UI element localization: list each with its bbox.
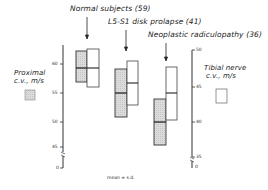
label-neoplastic-radiculopathy: Neoplastic radiculopathy (36) bbox=[148, 30, 262, 39]
left-legend-title: Proximal bbox=[14, 69, 45, 77]
right-axis bbox=[190, 50, 195, 168]
left-axis bbox=[60, 45, 65, 168]
box-neoplastic-tibial bbox=[166, 67, 177, 120]
left-tick-45: 45 bbox=[52, 144, 58, 149]
label-normal-subjects: Normal subjects (59) bbox=[70, 4, 151, 13]
box-normal-proximal bbox=[76, 51, 87, 82]
box-l5s1-tibial bbox=[127, 61, 138, 105]
right-tick-45: 45 bbox=[196, 84, 202, 89]
right-legend-units: c.v., m/s bbox=[206, 72, 236, 80]
left-tick-55: 55 bbox=[52, 90, 58, 95]
box-l5s1-proximal bbox=[115, 69, 127, 117]
box-neoplastic-proximal bbox=[154, 99, 166, 145]
legend-swatch-proximal bbox=[25, 90, 35, 100]
chart-canvas bbox=[0, 0, 268, 190]
right-tick-50: 50 bbox=[196, 47, 202, 52]
right-tick-40: 40 bbox=[196, 119, 202, 124]
left-tick-0: 0 bbox=[56, 165, 59, 170]
box-normal-tibial bbox=[87, 49, 99, 87]
footnote-mean-sd: mean ± s.d. bbox=[107, 175, 134, 180]
legend-swatch-tibial bbox=[216, 89, 227, 103]
right-legend-title: Tibial nerve bbox=[204, 64, 246, 72]
left-tick-60: 60 bbox=[52, 61, 58, 66]
left-tick-50: 50 bbox=[52, 119, 58, 124]
label-l5s1-disk-prolapse: L5-S1 disk prolapse (41) bbox=[108, 17, 202, 26]
left-legend-units: c.v., m/s bbox=[14, 77, 44, 85]
right-tick-35: 35 bbox=[196, 154, 202, 159]
right-tick-0: 0 bbox=[195, 164, 198, 169]
